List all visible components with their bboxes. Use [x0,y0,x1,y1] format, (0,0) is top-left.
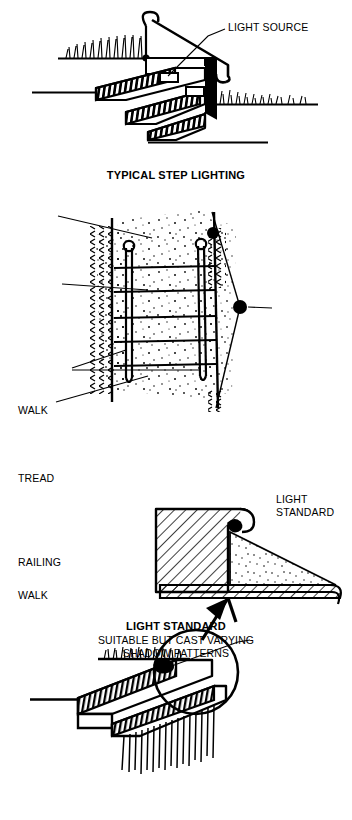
light-fixture-lower [186,87,204,96]
figure-light-standard: WALK TREAD RAILING WALK LIGHT STANDARD L… [0,190,352,480]
figure-strip-lighting: CONTINUOUS STRIP LIGHTING STRIP LIGHTING… [0,480,352,820]
detail-arrow [202,598,236,640]
caption-figure-1: TYPICAL STEP LIGHTING [0,169,352,182]
hedge-left [90,226,112,394]
label-walk-top: WALK [18,404,48,417]
stair-assembly [32,58,268,143]
label-light-source: LIGHT SOURCE [228,21,308,34]
figure-3-drawing [0,480,352,820]
grass-upper-left [62,35,146,58]
grass-right [212,90,306,104]
figure-2-drawing [0,190,352,480]
figure-typical-step-lighting: LIGHT SOURCE TYPICAL STEP LIGHTING [0,0,352,190]
illustration-sheet: LIGHT SOURCE TYPICAL STEP LIGHTING [0,0,352,820]
nosing-detail-section [156,509,341,604]
stair-perspective [30,647,226,774]
strip-light-fixture [228,520,242,532]
